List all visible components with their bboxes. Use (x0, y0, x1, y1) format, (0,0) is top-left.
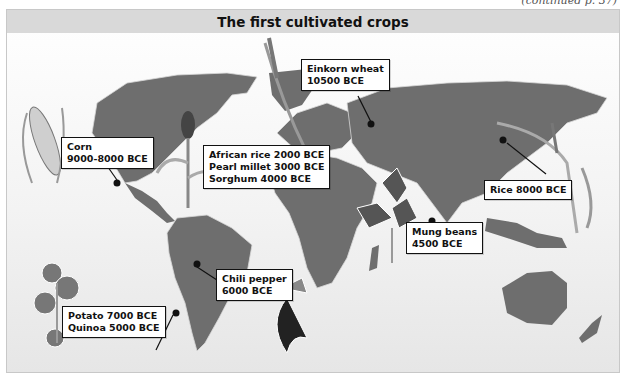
new-zealand (579, 315, 602, 343)
crop-date: 10500 BCE (307, 75, 384, 87)
map-figure: The first cultivated crops (6, 9, 620, 373)
crop-entry: Pearl millet 3000 BCE (209, 161, 324, 173)
madagascar (369, 245, 379, 271)
label-rice: Rice 8000 BCE (484, 180, 572, 200)
australia (502, 271, 567, 325)
continued-note: (continued p. 37) (521, 0, 617, 7)
label-africa: African rice 2000 BCE Pearl millet 3000 … (203, 145, 330, 189)
marker-rice (500, 137, 507, 144)
crop-date: 4500 BCE (412, 238, 477, 250)
crop-name: Corn (67, 141, 148, 153)
label-wheat: Einkorn wheat 10500 BCE (301, 59, 390, 91)
crop-entry: African rice 2000 BCE (209, 149, 324, 161)
crop-name: Chili pepper (222, 273, 287, 285)
label-corn: Corn 9000-8000 BCE (61, 137, 154, 169)
crop-entry: Rice 8000 BCE (490, 184, 566, 196)
crop-name: Mung beans (412, 226, 477, 238)
map-title: The first cultivated crops (217, 14, 408, 30)
marker-chili (194, 261, 201, 268)
marker-corn (114, 180, 121, 187)
central-america (125, 183, 175, 223)
crop-date: 6000 BCE (222, 285, 287, 297)
label-mung: Mung beans 4500 BCE (406, 222, 483, 254)
crop-date: 9000-8000 BCE (67, 153, 148, 165)
marker-wheat (368, 121, 375, 128)
label-chili: Chili pepper 6000 BCE (216, 269, 293, 301)
crop-entry: Quinoa 5000 BCE (68, 322, 160, 334)
crop-entry: Sorghum 4000 BCE (209, 173, 324, 185)
asia (347, 81, 607, 223)
label-potato: Potato 7000 BCE Quinoa 5000 BCE (62, 306, 166, 338)
crop-entry: Potato 7000 BCE (68, 310, 160, 322)
crop-name: Einkorn wheat (307, 63, 384, 75)
southeast-asia (485, 218, 567, 248)
title-bar: The first cultivated crops (7, 10, 619, 33)
marker-potato (173, 310, 180, 317)
